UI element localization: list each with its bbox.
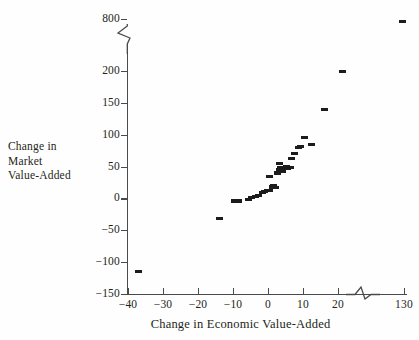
y-tick [121, 230, 127, 231]
y-tick-label: −50 [74, 224, 120, 236]
x-tick-label: 20 [316, 299, 360, 311]
y-tick [121, 294, 127, 295]
x-tick [163, 288, 164, 294]
x-tick [338, 288, 339, 294]
data-point [301, 136, 308, 139]
data-point [287, 166, 294, 169]
y-tick [121, 103, 127, 104]
data-point [297, 145, 304, 148]
data-point [321, 108, 328, 111]
x-tick [128, 288, 129, 294]
scatter-chart: −150−100−50050100150200800 −40−30−20−100… [0, 0, 419, 340]
x-tick [198, 288, 199, 294]
y-tick [121, 135, 127, 136]
y-tick-label: −150 [74, 288, 120, 300]
x-tick [268, 288, 269, 294]
x-axis-break-icon [346, 278, 380, 300]
y-tick-label: −100 [74, 256, 120, 268]
y-tick [121, 167, 127, 168]
y-axis-break-icon [113, 24, 135, 54]
data-point [288, 157, 295, 160]
data-point [135, 270, 142, 273]
data-point [308, 143, 315, 146]
y-tick-label: 0 [74, 192, 120, 204]
y-tick-label: 100 [74, 129, 120, 141]
y-tick [121, 71, 127, 72]
x-tick [404, 288, 405, 294]
data-point [235, 199, 242, 202]
y-tick-label: 800 [74, 13, 120, 25]
x-axis-line [127, 294, 380, 295]
y-tick-label: 150 [74, 97, 120, 109]
y-tick-label: 200 [74, 65, 120, 77]
y-axis-line [127, 44, 128, 295]
y-tick [121, 19, 127, 20]
data-point [216, 217, 223, 220]
data-point [272, 186, 279, 189]
y-tick [121, 262, 127, 263]
x-tick-label: 130 [382, 299, 419, 311]
y-axis-title: Change in Market Value-Added [8, 139, 71, 183]
x-axis-title: Change in Economic Value-Added [0, 317, 419, 332]
y-tick [121, 198, 127, 199]
x-tick [303, 288, 304, 294]
x-tick [233, 288, 234, 294]
y-tick-label: 50 [74, 161, 120, 173]
data-point [266, 175, 273, 178]
data-point [339, 70, 346, 73]
data-point [399, 20, 406, 23]
x-axis-title-text: Change in Economic Value-Added [151, 317, 331, 331]
data-point [291, 152, 298, 155]
